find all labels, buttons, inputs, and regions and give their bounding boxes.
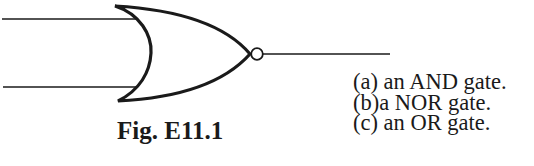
inversion-bubble-icon [251,48,263,60]
answer-options: (a) an AND gate. (b)a NOR gate. (c) an O… [353,72,507,134]
nor-gate-body-icon [115,6,250,101]
figure-caption: Fig. E11.1 [117,117,223,145]
option-c-label: (c) [353,110,378,135]
option-c-text: an OR gate. [378,110,490,135]
option-c: (c) an OR gate. [353,113,507,134]
